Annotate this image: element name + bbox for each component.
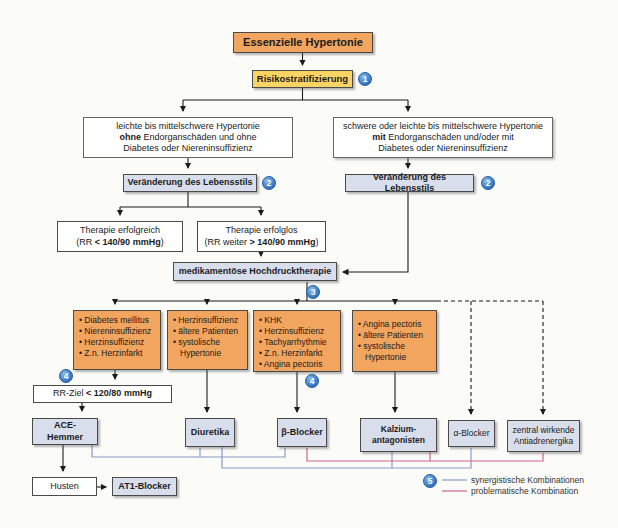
node-indications-calcium: • Angina pectoris • ältere Patienten • s…	[352, 310, 437, 372]
branch-left-line3: Diabetes oder Niereninsuffizienz	[123, 143, 252, 154]
indication-item: • Herzinsuffizienz	[173, 315, 244, 326]
indication-item: • Tachyarrhythmie	[259, 337, 328, 348]
step-badge-3: 3	[306, 285, 320, 299]
indication-item: • Z.n. Herzinfarkt	[79, 348, 153, 359]
therapy-success-line2: (RR < 140/90 mmHg)	[76, 237, 163, 248]
indication-item: • ältere Patienten	[173, 326, 244, 337]
node-indications-beta-blocker: • KHK • Herzinsuffizienz • Tachyarrhythm…	[253, 310, 341, 372]
indication-item: • Niereninsuffizienz	[79, 326, 153, 337]
legend-synergistic-label: synergistische Kombinationen	[471, 475, 584, 485]
step-badge-2-right: 2	[481, 176, 495, 190]
calcium-line1: Kalzium-	[381, 424, 416, 435]
indication-item: • KHK	[259, 315, 328, 326]
node-at1-blocker: AT1-Blocker	[112, 477, 177, 496]
step-badge-4-mid: 4	[305, 374, 319, 388]
central-line1: zentral wirkende	[513, 425, 575, 436]
node-central-antiadrenergics: zentral wirkende Antiadrenergika	[507, 420, 580, 452]
indication-item: • Z.n. Herzinfarkt	[259, 348, 328, 359]
branch-right-line3: Diabetes oder Niereninsuffizienz	[378, 143, 507, 154]
node-therapy-unsuccessful: Therapie erfolglos (RR weiter > 140/90 m…	[197, 221, 326, 252]
node-lifestyle-change-left: Veränderung des Lebensstils	[123, 174, 257, 192]
node-beta-blocker: β-Blocker	[277, 418, 327, 447]
node-mild-hypertension-branch: leichte bis mittelschwere Hypertonie ohn…	[83, 117, 293, 158]
legend-problematic-label: problematische Kombination	[471, 486, 578, 496]
branch-right-line2: mit Endorganschäden und/oder mit	[372, 132, 514, 143]
branch-left-line2: ohne Endorganschäden und ohne	[119, 132, 256, 143]
dashed-flow-arrows	[437, 301, 543, 414]
therapy-fail-line1: Therapie erfolglos	[225, 225, 297, 236]
calcium-line2: antagonisten	[372, 435, 425, 446]
node-indications-diuretic: • Herzinsuffizienz • ältere Patienten • …	[167, 310, 248, 370]
branch-left-line1: leichte bis mittelschwere Hypertonie	[116, 121, 260, 132]
therapy-fail-line2: (RR weiter > 140/90 mmHg)	[205, 237, 319, 248]
node-essential-hypertension: Essenzielle Hypertonie	[233, 32, 373, 53]
node-drug-therapy: medikamentöse Hochdrucktherapie	[173, 262, 337, 281]
node-cough-side-effect: Husten	[32, 477, 97, 496]
indication-item: • systolische Hypertonie	[358, 341, 433, 363]
step-badge-1: 1	[358, 72, 372, 86]
branch-right-line1: schwere oder leichte bis mittelschwere H…	[343, 121, 543, 132]
indication-item: • Herzinsuffizienz	[79, 337, 153, 348]
step-badge-5: 5	[423, 474, 437, 488]
therapy-success-line1: Therapie erfolgreich	[80, 225, 160, 236]
indication-item: • Angina pectoris	[358, 319, 433, 330]
indication-item: • systolische Hypertonie	[173, 337, 244, 359]
node-calcium-antagonists: Kalzium- antagonisten	[360, 418, 437, 452]
node-risk-stratification: Risikostratifizierung	[252, 70, 353, 88]
indication-item: • ältere Patienten	[358, 330, 433, 341]
indication-item: • Diabetes mellitus	[79, 315, 153, 326]
node-diuretics: Diuretika	[185, 418, 235, 447]
indication-item: • Herzinsuffizienz	[259, 326, 328, 337]
bp-target-text: RR-Ziel < 120/80 mmHg	[53, 388, 152, 399]
node-severe-hypertension-branch: schwere oder leichte bis mittelschwere H…	[333, 117, 553, 158]
central-line2: Antiadrenergika	[514, 436, 574, 447]
node-therapy-successful: Therapie erfolgreich (RR < 140/90 mmHg)	[57, 221, 183, 252]
node-indications-ace: • Diabetes mellitus • Niereninsuffizienz…	[73, 310, 161, 370]
step-badge-2-left: 2	[262, 176, 276, 190]
node-lifestyle-change-right: Veränderung des Lebensstils	[345, 174, 474, 192]
step-badge-4-left: 4	[59, 369, 73, 383]
node-bp-target: RR-Ziel < 120/80 mmHg	[33, 385, 172, 403]
indication-item: • Angina pectoris	[259, 359, 328, 370]
hypertension-flowchart: Essenzielle Hypertonie Risikostratifizie…	[0, 0, 618, 528]
node-ace-inhibitor: ACE-Hemmer	[32, 418, 98, 445]
node-alpha-blocker: α-Blocker	[448, 420, 495, 447]
